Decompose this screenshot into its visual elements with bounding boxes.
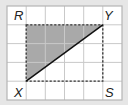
label-S: S — [105, 85, 114, 100]
label-R: R — [14, 8, 23, 23]
grid-diagram: R Y S X — [0, 0, 128, 105]
label-X: X — [13, 85, 24, 100]
label-Y: Y — [104, 8, 114, 23]
